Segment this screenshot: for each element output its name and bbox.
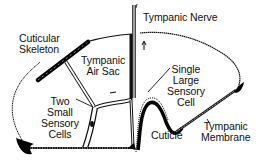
left-body-outline xyxy=(12,62,40,140)
label-tympanic-membrane: Tympanic Membrane xyxy=(201,121,250,143)
membrane-attachment xyxy=(234,82,244,93)
label-tympanic-nerve: Tympanic Nerve xyxy=(143,12,217,23)
label-cuticle: Cuticle xyxy=(151,130,182,141)
band-arrow xyxy=(110,92,116,93)
label-tympanic-air-sac: Tympanic Air Sac xyxy=(81,55,125,77)
air-sac-top-left xyxy=(86,34,132,42)
label-two-small-sensory-cells: Two Small Sensory Cells xyxy=(41,96,79,140)
label-cuticular-skeleton: Cuticular Skeleton xyxy=(19,33,60,55)
cuticle-s-curve xyxy=(138,102,182,150)
label-single-large-sensory-cell: Single Large Sensory Cell xyxy=(167,64,205,108)
nerve-arrow xyxy=(142,41,146,50)
left-cuticle-foot xyxy=(16,138,34,154)
